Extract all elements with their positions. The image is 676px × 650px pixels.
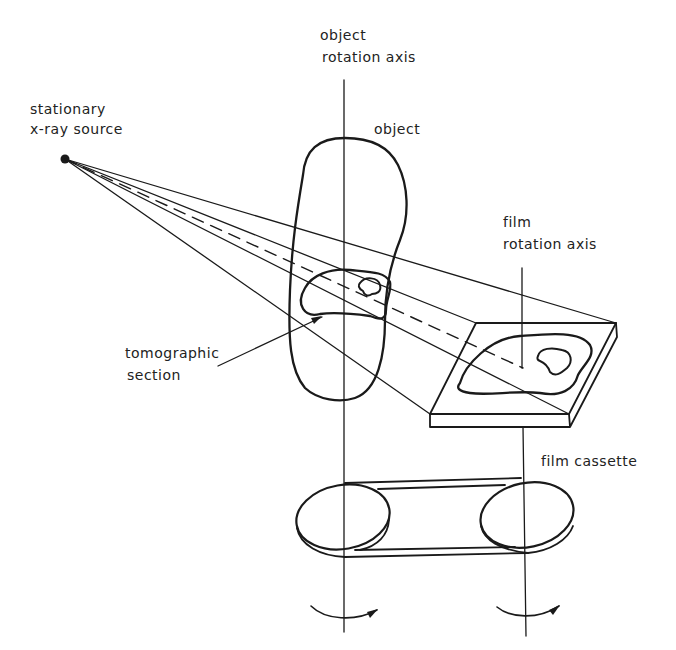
object-rotation-arrowhead [367,609,378,618]
film-rotation-axis-lower [523,427,526,636]
label-source-line1: stationary [30,101,106,117]
section-pointer-line [218,317,322,366]
section-pointer-arrowhead [311,316,322,324]
film-rotation-arrow [497,606,559,616]
label-film-axis-line2: rotation axis [503,236,597,252]
label-cassette: film cassette [541,453,637,469]
label-source-line2: x-ray source [30,121,123,137]
central-ray-dashed [65,159,523,368]
label-object: object [374,121,420,137]
label-section-line1: tomographic [125,345,219,361]
label-section-line2: section [127,367,181,383]
film-image-contour [458,334,591,394]
label-film-axis-line1: film [503,214,531,230]
tomographic-section [301,270,390,319]
label-object-axis-line2: rotation axis [322,49,416,65]
tomography-diagram: stationary x-ray source object rotation … [0,0,676,650]
film-rotation-arrowhead [549,605,560,615]
belt-drive [291,474,579,557]
film-image-inner-feature [537,348,570,374]
label-object-axis-line1: object [320,27,366,43]
